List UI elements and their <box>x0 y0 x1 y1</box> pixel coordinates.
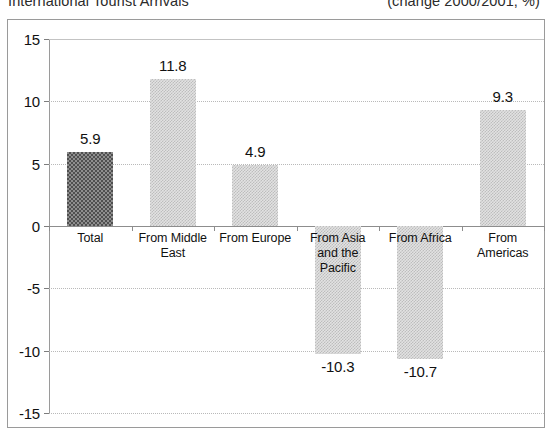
category-label-line: Total <box>49 231 132 246</box>
x-axis-category-label: From Africa <box>379 231 462 246</box>
category-label-line: From Asia <box>297 231 380 246</box>
bar <box>232 165 278 226</box>
category-label-line: From Africa <box>379 231 462 246</box>
category-label-line: and the <box>297 246 380 261</box>
bar-value-label: 5.9 <box>49 130 132 147</box>
x-axis-category-label: From Asiaand thePacific <box>297 231 380 276</box>
bar-value-label: 11.8 <box>132 57 215 74</box>
bar <box>150 79 196 226</box>
category-label-line: Pacific <box>297 261 380 276</box>
chart-frame: 151050-5-10-155.9Total11.8From MiddleEas… <box>7 19 545 428</box>
plot-area: 151050-5-10-155.9Total11.8From MiddleEas… <box>49 39 544 413</box>
y-axis-tick-label: 0 <box>32 218 40 235</box>
x-axis-category-label: FromAmericas <box>462 231 545 261</box>
y-axis-tick <box>44 288 49 289</box>
gridline <box>49 351 544 352</box>
bar-value-label: -10.3 <box>297 358 380 375</box>
y-axis-tick <box>44 164 49 165</box>
gridline <box>49 164 544 165</box>
y-axis-tick <box>44 351 49 352</box>
bar-value-label: -10.7 <box>379 363 462 380</box>
x-axis-category-label: From MiddleEast <box>132 231 215 261</box>
x-axis-tick <box>49 226 50 231</box>
chart-title: International Tourist Arrivals <box>8 0 189 9</box>
category-label-line: Americas <box>462 246 545 261</box>
chart-subtitle: (change 2000/2001, %) <box>387 0 540 9</box>
category-label-line: East <box>132 246 215 261</box>
y-axis-tick <box>44 101 49 102</box>
y-axis-tick-label: -10 <box>19 342 40 359</box>
bar <box>397 226 443 359</box>
gridline <box>49 288 544 289</box>
y-axis-tick-label: 10 <box>24 93 40 110</box>
y-axis-tick <box>44 39 49 40</box>
x-axis-tick <box>544 226 545 231</box>
bar <box>480 110 526 226</box>
x-axis-tick <box>379 226 380 231</box>
bar <box>67 152 113 226</box>
x-axis-tick <box>297 226 298 231</box>
chart-header: International Tourist Arrivals (change 2… <box>0 0 560 13</box>
x-axis-tick <box>132 226 133 231</box>
category-label-line: From Europe <box>214 231 297 246</box>
bar-value-label: 9.3 <box>462 88 545 105</box>
x-axis-tick <box>462 226 463 231</box>
y-axis-tick-label: 5 <box>32 155 40 172</box>
y-axis-tick-label: 15 <box>24 31 40 48</box>
bar-value-label: 4.9 <box>214 143 297 160</box>
x-axis-tick <box>214 226 215 231</box>
x-axis-category-label: Total <box>49 231 132 246</box>
gridline <box>49 39 544 40</box>
x-axis-category-label: From Europe <box>214 231 297 246</box>
gridline <box>49 413 544 414</box>
y-axis-tick <box>44 413 49 414</box>
category-label-line: From <box>462 231 545 246</box>
y-axis-tick-label: -15 <box>19 405 40 422</box>
y-axis-tick-label: -5 <box>27 280 40 297</box>
category-label-line: From Middle <box>132 231 215 246</box>
